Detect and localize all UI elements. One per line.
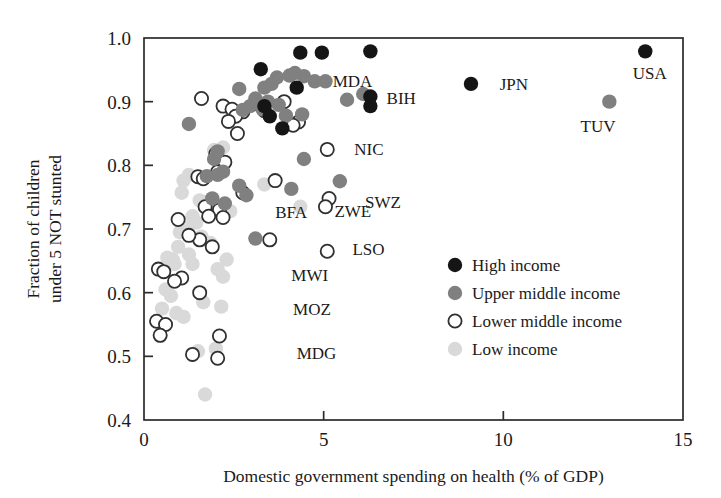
- data-point-upper: [318, 74, 332, 88]
- data-point-low: [176, 173, 190, 187]
- x-tick-label: 5: [319, 429, 329, 450]
- data-point-lower: [231, 127, 244, 140]
- data-point-lower: [172, 213, 185, 226]
- data-point-lower: [216, 211, 229, 224]
- legend-marker-lower[interactable]: [448, 314, 461, 327]
- data-point-lower: [319, 200, 332, 213]
- data-point-low: [176, 310, 190, 324]
- data-point-lower: [193, 286, 206, 299]
- data-point-low: [198, 387, 212, 401]
- annotation-moz: MOZ: [293, 300, 331, 319]
- data-point-upper: [200, 169, 214, 183]
- x-axis-title: Domestic government spending on health (…: [223, 466, 604, 486]
- annotation-mda: MDA: [333, 72, 373, 91]
- annotation-zwe: ZWE: [334, 202, 371, 221]
- annotation-tuv: TUV: [581, 117, 617, 136]
- data-point-lower: [186, 348, 199, 361]
- data-point-low: [164, 289, 178, 303]
- annotation-mdg: MDG: [297, 344, 337, 363]
- data-point-lower: [321, 245, 334, 258]
- x-tick-label: 10: [494, 429, 513, 450]
- data-point-upper: [284, 182, 298, 196]
- data-point-upper: [207, 152, 221, 166]
- data-point-upper: [182, 117, 196, 131]
- x-tick-label: 0: [139, 429, 149, 450]
- data-point-low: [185, 257, 199, 271]
- data-point-high: [363, 99, 377, 113]
- data-point-high: [464, 77, 478, 91]
- data-point-upper: [236, 103, 250, 117]
- data-point-lower: [202, 210, 215, 223]
- legend-marker-upper[interactable]: [448, 286, 462, 300]
- y-tick-label: 0.4: [107, 410, 131, 431]
- annotation-bfa: BFA: [275, 203, 308, 222]
- data-point-upper: [248, 231, 262, 245]
- y-axis-title-line2: under 5 NOT stunted: [45, 155, 65, 303]
- data-point-low: [160, 250, 174, 264]
- legend-label-high[interactable]: High income: [472, 256, 560, 275]
- data-point-lower: [222, 115, 235, 128]
- data-point-upper: [205, 191, 219, 205]
- y-tick-label: 0.6: [107, 283, 131, 304]
- data-point-low: [175, 186, 189, 200]
- annotation-mwi: MWI: [291, 266, 328, 285]
- annotation-lso: LSO: [352, 240, 384, 259]
- data-point-lower: [154, 329, 167, 342]
- data-point-upper: [279, 108, 293, 122]
- scatter-chart-figure: 0.40.50.60.70.80.91.0051015 MDABIHJPNUSA…: [0, 0, 721, 498]
- data-point-high: [293, 45, 307, 59]
- annotation-nic: NIC: [354, 140, 383, 159]
- y-tick-label: 0.5: [107, 346, 131, 367]
- data-point-high: [263, 109, 277, 123]
- data-point-upper: [239, 188, 253, 202]
- y-axis-title-line1: Fraction of children: [23, 159, 43, 298]
- data-point-upper: [232, 82, 246, 96]
- data-point-lower: [157, 265, 170, 278]
- data-point-low: [216, 270, 230, 284]
- y-tick-label: 0.9: [107, 92, 131, 113]
- data-point-high: [363, 44, 377, 58]
- data-point-lower: [213, 329, 226, 342]
- x-tick-label: 15: [674, 429, 693, 450]
- legend-marker-low[interactable]: [448, 342, 462, 356]
- data-point-upper: [340, 93, 354, 107]
- data-point-lower: [195, 92, 208, 105]
- data-point-upper: [295, 107, 309, 121]
- legend-label-low[interactable]: Low income: [472, 340, 557, 359]
- data-point-low: [214, 299, 228, 313]
- y-tick-label: 0.7: [107, 219, 131, 240]
- data-point-lower: [263, 233, 276, 246]
- legend-label-upper[interactable]: Upper middle income: [472, 284, 620, 303]
- y-tick-label: 0.8: [107, 155, 131, 176]
- data-point-upper: [297, 152, 311, 166]
- data-point-high: [315, 45, 329, 59]
- data-point-lower: [206, 240, 219, 253]
- data-point-lower: [182, 229, 195, 242]
- data-point-high: [638, 44, 652, 58]
- annotation-jpn: JPN: [500, 75, 528, 94]
- legend-label-lower[interactable]: Lower middle income: [472, 312, 622, 331]
- data-point-upper: [333, 174, 347, 188]
- data-point-lower: [168, 275, 181, 288]
- legend-marker-high[interactable]: [448, 258, 462, 272]
- data-point-high: [254, 62, 268, 76]
- data-point-upper: [282, 68, 296, 82]
- chart-canvas: 0.40.50.60.70.80.91.0051015 MDABIHJPNUSA…: [0, 0, 721, 498]
- data-point-high: [275, 121, 289, 135]
- annotation-bih: BIH: [387, 89, 416, 108]
- data-point-lower: [269, 174, 282, 187]
- data-point-high: [290, 80, 304, 94]
- data-point-lower: [211, 352, 224, 365]
- data-point-upper: [218, 196, 232, 210]
- annotation-usa: USA: [633, 64, 668, 83]
- y-tick-label: 1.0: [107, 28, 131, 49]
- data-point-upper: [602, 94, 616, 108]
- data-point-low: [155, 301, 169, 315]
- data-point-lower: [321, 143, 334, 156]
